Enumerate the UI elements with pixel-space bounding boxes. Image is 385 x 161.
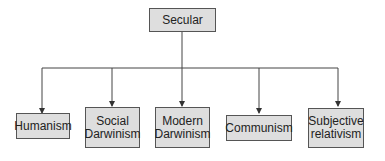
node-communism: Communism bbox=[226, 115, 292, 141]
node-label-line2: Darwinism bbox=[85, 128, 141, 141]
node-social-darwinism: Social Darwinism bbox=[85, 107, 140, 148]
node-subjective-relativism: Subjective relativism bbox=[308, 108, 364, 148]
node-label-line1: Social bbox=[96, 115, 129, 128]
node-label-line2: relativism bbox=[311, 128, 362, 141]
node-label-line2: Darwinism bbox=[155, 128, 211, 141]
node-label: Communism bbox=[225, 122, 292, 135]
node-label: Secular bbox=[162, 14, 203, 27]
node-label-line1: Modern bbox=[162, 115, 203, 128]
node-humanism: Humanism bbox=[16, 113, 70, 139]
node-modern-darwinism: Modern Darwinism bbox=[155, 107, 210, 148]
node-label: Humanism bbox=[14, 120, 71, 133]
node-secular: Secular bbox=[149, 8, 216, 32]
